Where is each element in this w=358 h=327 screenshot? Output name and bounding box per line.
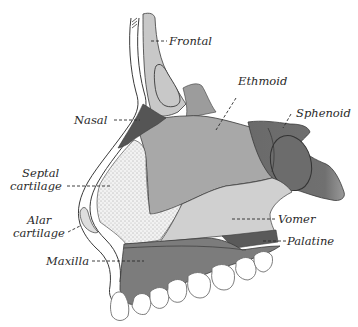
tooth	[254, 252, 273, 273]
tooth	[236, 258, 256, 281]
label-sphenoid: Sphenoid	[296, 107, 351, 119]
label-vomer: Vomer	[278, 213, 315, 225]
label-maxilla: Maxilla	[46, 255, 89, 267]
label-alar-line2: cartilage	[13, 227, 65, 239]
hatch-marks	[132, 18, 137, 28]
leader-alar	[68, 226, 80, 232]
tooth	[150, 288, 169, 309]
tooth	[212, 265, 235, 290]
tooth	[132, 294, 151, 315]
ethmoid-crista	[183, 84, 216, 118]
nasal-septum-diagram	[0, 0, 358, 327]
label-septal-line1: Septal	[22, 167, 59, 179]
label-nasal: Nasal	[74, 114, 107, 126]
label-septal-line2: cartilage	[10, 180, 62, 192]
label-ethmoid: Ethmoid	[238, 75, 287, 87]
label-frontal: Frontal	[169, 35, 212, 47]
label-alar-line1: Alar	[27, 214, 51, 226]
tooth	[168, 280, 187, 303]
label-palatine: Palatine	[287, 235, 334, 247]
tooth	[188, 273, 211, 298]
